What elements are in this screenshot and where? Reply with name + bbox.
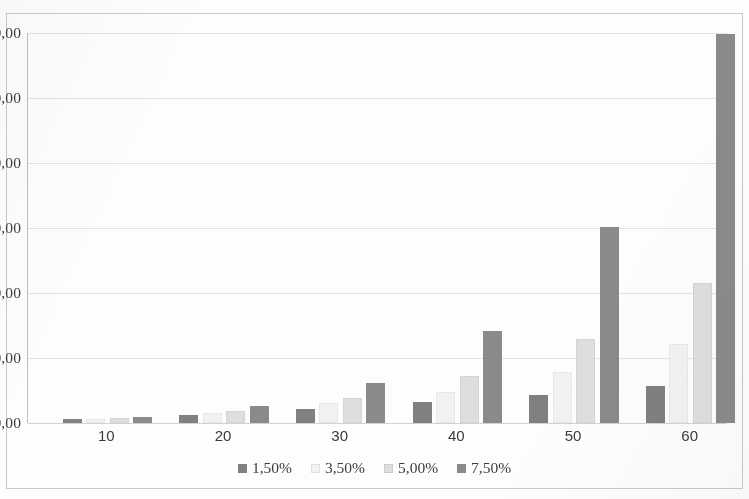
x-axis-tick-label: 60 <box>660 427 720 444</box>
bar-group <box>296 33 386 423</box>
bar <box>343 398 362 423</box>
bar <box>413 402 432 423</box>
bar <box>716 34 735 423</box>
bar <box>553 372 572 423</box>
y-axis-tick-label: 200.000,00 <box>0 284 21 302</box>
legend-label: 5,00% <box>398 459 438 477</box>
bar-group <box>63 33 153 423</box>
legend-swatch-icon <box>384 464 393 473</box>
legend-label: 3,50% <box>325 459 365 477</box>
bar <box>226 411 245 423</box>
chart-legend: 1,50%3,50%5,00%7,50% <box>0 459 749 477</box>
bar <box>133 417 152 423</box>
bar <box>250 406 269 423</box>
bar-chart-figure: 0,00100.000,00200.000,00300.000,00400.00… <box>0 0 749 499</box>
bar <box>529 395 548 423</box>
bar <box>600 227 619 423</box>
y-axis-tick-label: 600.000,00 <box>0 24 21 42</box>
bar-group <box>646 33 736 423</box>
legend-item[interactable]: 1,50% <box>238 459 292 477</box>
legend-item[interactable]: 7,50% <box>457 459 511 477</box>
x-axis-tick-label: 50 <box>543 427 603 444</box>
x-axis-tick-label: 10 <box>76 427 136 444</box>
legend-swatch-icon <box>457 464 466 473</box>
y-axis-tick-label: 300.000,00 <box>0 219 21 237</box>
bar <box>296 409 315 423</box>
y-axis-tick-label: 400.000,00 <box>0 154 21 172</box>
bar <box>436 392 455 423</box>
bar <box>86 419 105 423</box>
bar <box>366 383 385 423</box>
bar <box>179 415 198 423</box>
bar <box>110 418 129 423</box>
bar-group <box>529 33 619 423</box>
plot-area <box>27 33 727 423</box>
x-axis-tick-label: 30 <box>310 427 370 444</box>
x-axis-tick-label: 40 <box>426 427 486 444</box>
bars-layer <box>28 33 727 423</box>
legend-swatch-icon <box>238 464 247 473</box>
bar <box>669 344 688 423</box>
y-axis-tick-label: 500.000,00 <box>0 89 21 107</box>
bar-group <box>413 33 503 423</box>
bar <box>693 283 712 423</box>
bar <box>319 403 338 423</box>
bar <box>460 376 479 423</box>
legend-label: 1,50% <box>252 459 292 477</box>
legend-item[interactable]: 5,00% <box>384 459 438 477</box>
x-axis-tick-label: 20 <box>193 427 253 444</box>
y-axis-tick-label: 100.000,00 <box>0 349 21 367</box>
legend-item[interactable]: 3,50% <box>311 459 365 477</box>
bar <box>203 413 222 423</box>
bar <box>483 331 502 423</box>
legend-swatch-icon <box>311 464 320 473</box>
bar <box>576 339 595 423</box>
bar-group <box>179 33 269 423</box>
x-axis-labels: 102030405060 <box>27 427 727 451</box>
bar <box>63 419 82 423</box>
gridline <box>28 423 727 424</box>
bar <box>646 386 665 423</box>
y-axis-tick-label: 0,00 <box>0 414 21 432</box>
legend-label: 7,50% <box>471 459 511 477</box>
